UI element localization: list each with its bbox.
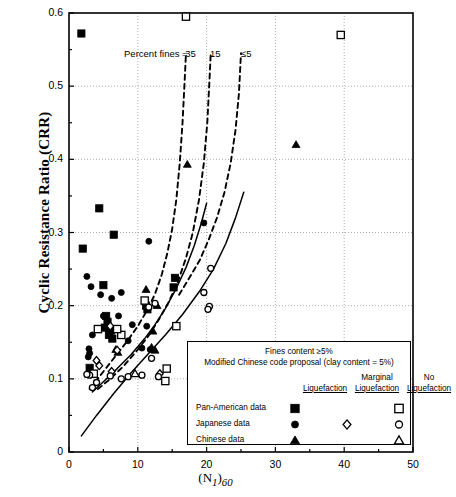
data-point-open-circle [125,374,131,380]
data-point-filled-circle [118,289,124,295]
data-point-open-diamond [343,420,351,429]
legend-title-line2: Modified Chinese code proposal (clay con… [188,358,410,369]
data-point-filled-triangle [142,286,150,293]
y-tick-label: 0.5 [29,79,63,91]
annotation-percent-fines-0: Percent fines = [124,48,188,59]
legend-symbol-glyph [285,418,305,431]
data-point-open-circle [152,300,158,306]
data-point-filled-square [100,282,107,289]
legend-symbol-glyph [337,418,357,431]
x-tick-label: 10 [121,458,155,470]
legend-header-no-liquefaction: Liquefaction [400,384,456,394]
data-point-open-square [162,377,169,384]
data-point-filled-square [109,335,116,342]
legend-header-marginal: Liquefaction [348,384,406,394]
data-point-open-square [114,325,121,332]
data-point-filled-square [110,231,117,238]
data-point-filled-circle [85,354,91,360]
data-point-filled-circle [146,238,152,244]
data-point-filled-circle [292,421,299,428]
data-point-open-circle [84,371,90,377]
data-point-filled-circle [84,273,90,279]
legend-row: Japanese data [188,416,412,433]
data-point-open-circle [205,306,211,312]
data-point-filled-circle [88,284,94,290]
data-point-filled-triangle [290,436,299,444]
data-point-open-square [182,13,189,20]
data-point-filled-circle [100,313,106,319]
x-tick-label: 50 [396,458,430,470]
annotation-percent-fines-2: 15 [210,48,221,59]
annotation-percent-fines-1: 35 [185,48,196,59]
x-tick-label: 0 [52,458,86,470]
legend-symbol-glyph [285,434,305,447]
legend-symbol-glyph [285,402,305,415]
legend-symbol-glyph [389,402,409,415]
legend-header-marginal-top: Marginal [348,373,406,383]
data-point-open-circle [155,374,161,380]
data-point-filled-circle [98,292,104,298]
data-point-filled-circle [139,345,145,351]
y-tick-label: 0.2 [29,299,63,311]
legend-row-label: Pan-American data [196,403,266,412]
legend-row-label: Japanese data [196,419,250,428]
data-point-filled-square [171,274,178,281]
y-tick-label: 0.4 [29,152,63,164]
data-point-open-circle [208,265,214,271]
y-tick-label: 0.6 [29,6,63,18]
data-point-filled-square [170,284,177,291]
legend-column-headers: Liquefaction Marginal Liquefaction No Li… [188,372,412,396]
data-point-open-circle [146,304,152,310]
data-point-open-circle [89,385,95,391]
legend-symbol-glyph [389,418,409,431]
data-point-filled-square [291,404,299,412]
data-point-filled-square [78,30,85,37]
data-point-filled-circle [201,220,207,226]
x-tick-label: 20 [190,458,224,470]
curve-dashed [179,53,241,294]
legend-row: Chinese data [188,432,412,449]
data-point-filled-triangle [292,141,300,148]
data-point-filled-square [79,245,86,252]
legend-row: Pan-American data [188,400,412,417]
legend-title-line1: Fines content ≥5% [188,347,410,358]
data-point-filled-circle [116,313,122,319]
data-point-filled-triangle [183,160,191,167]
data-point-open-square [163,365,170,372]
legend-header-no-top: No [400,373,456,383]
x-tick-label: 40 [327,458,361,470]
legend-row-label: Chinese data [196,435,244,444]
data-point-filled-circle [125,338,131,344]
series-filled-square [78,30,179,372]
data-point-open-square [395,404,403,412]
legend-header-liquefaction: Liquefaction [296,384,354,394]
data-point-filled-circle [129,322,135,328]
data-point-filled-circle [144,323,150,329]
data-point-open-triangle [394,436,403,444]
data-point-open-circle [139,372,145,378]
data-point-open-circle [201,289,207,295]
chart-legend: Fines content ≥5% Modified Chinese code … [187,341,411,445]
data-point-open-circle [107,373,113,379]
series-open-square [90,13,344,385]
data-point-filled-square [96,205,103,212]
y-tick-label: 0.1 [29,372,63,384]
x-tick-label: 30 [258,458,292,470]
data-point-open-circle [396,421,403,428]
data-point-open-circle [149,355,155,361]
data-point-open-circle [118,376,124,382]
data-point-open-square [94,325,101,332]
legend-symbol-glyph [389,434,409,447]
data-point-filled-circle [109,295,115,301]
y-tick-label: 0 [29,445,63,457]
data-point-open-square [141,297,148,304]
y-tick-label: 0.3 [29,226,63,238]
annotation-percent-fines-3: ≤5 [241,48,252,59]
legend-title: Fines content ≥5% Modified Chinese code … [188,342,410,368]
data-point-open-square [173,323,180,330]
data-point-open-square [337,31,344,38]
